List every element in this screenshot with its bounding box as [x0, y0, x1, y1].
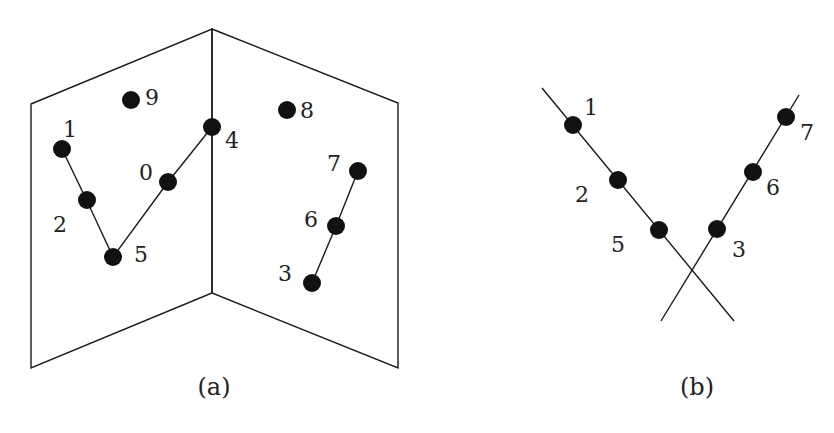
point-b5	[650, 221, 668, 239]
point-4	[203, 118, 221, 136]
label-9: 9	[145, 85, 159, 110]
point-b2	[609, 171, 627, 189]
point-2	[78, 191, 96, 209]
label-b3: 3	[732, 237, 746, 262]
label-4: 4	[225, 128, 239, 153]
label-5: 5	[134, 242, 148, 267]
point-6	[327, 217, 345, 235]
right-plane	[212, 29, 398, 368]
point-b7	[777, 108, 795, 126]
point-1	[53, 140, 71, 158]
point-b1	[564, 116, 582, 134]
left-plane	[31, 29, 212, 368]
label-b2: 2	[575, 182, 589, 207]
line-right	[661, 95, 799, 321]
label-b7: 7	[800, 120, 814, 145]
point-0	[159, 173, 177, 191]
label-7: 7	[327, 151, 341, 176]
point-3	[303, 274, 321, 292]
point-8	[278, 101, 296, 119]
label-3: 3	[278, 261, 292, 286]
label-b5: 5	[611, 232, 625, 257]
point-9	[122, 91, 140, 109]
diagram-canvas: 1 2 5 0 4 9 8 7 6 3 (a) 1 2 5 3 6 7 (b)	[0, 0, 834, 433]
label-2: 2	[53, 212, 67, 237]
caption-b: (b)	[680, 373, 714, 401]
caption-a: (a)	[197, 373, 230, 401]
figure-a: 1 2 5 0 4 9 8 7 6 3 (a)	[31, 29, 398, 401]
point-b3	[708, 220, 726, 238]
label-b1: 1	[584, 95, 598, 120]
label-6: 6	[304, 207, 318, 232]
label-1: 1	[63, 117, 77, 142]
label-0: 0	[139, 160, 153, 185]
label-b6: 6	[766, 175, 780, 200]
point-b6	[744, 163, 762, 181]
label-8: 8	[300, 98, 314, 123]
point-5	[104, 248, 122, 266]
figure-b: 1 2 5 3 6 7 (b)	[542, 88, 814, 401]
point-7	[349, 162, 367, 180]
